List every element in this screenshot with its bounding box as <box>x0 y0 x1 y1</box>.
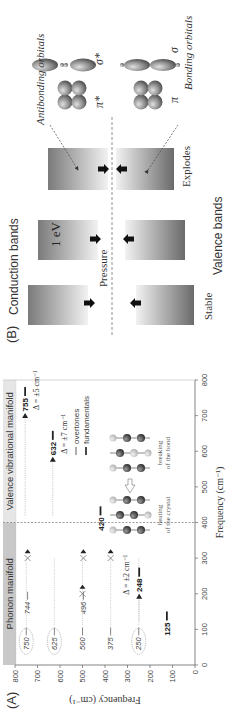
transition-arrow-icon <box>125 479 135 493</box>
atom <box>110 465 117 472</box>
state-label-explodes: Explodes <box>180 146 192 187</box>
y-tick-label: 600 <box>56 670 65 683</box>
fundamental-label: 420 <box>97 517 106 531</box>
fundamental-arrow <box>136 594 142 599</box>
atom <box>116 449 124 457</box>
figure: (A) Phonon manifoldValence vibrational m… <box>0 0 230 715</box>
overtone-label: 500 <box>78 637 87 650</box>
fundamental-label: 125 <box>163 622 172 636</box>
sigma-star-label: σ* <box>92 53 106 65</box>
y-tick-label: 800 <box>11 670 20 683</box>
fundamental-arrow <box>22 413 28 418</box>
legend: overtonesfundamentals <box>72 396 91 455</box>
sigma-orbital <box>120 59 180 71</box>
conduction-bands-label: Conduction bands <box>7 218 21 315</box>
bonding-orbitals-label: Bonding orbitals <box>182 16 194 90</box>
sigma-label: σ <box>167 46 181 53</box>
arrow-marker <box>80 549 86 553</box>
atom <box>130 449 138 457</box>
legend-label: fundamentals <box>82 396 91 444</box>
arrow-marker <box>25 549 31 553</box>
atom <box>137 464 145 472</box>
orbital-lobe <box>124 59 150 71</box>
y-tick-label: 400 <box>101 670 110 683</box>
delta-annotation: Δ = ±7 cm⁻¹ <box>60 413 69 453</box>
pi-star-orbital <box>58 81 87 110</box>
atom <box>123 496 131 504</box>
atom <box>145 450 152 457</box>
atom <box>123 526 131 534</box>
orbital-lobe <box>72 81 87 96</box>
orbital-lobe <box>148 81 163 96</box>
y-tick-label: 0 <box>191 670 200 674</box>
orbital-lobe <box>64 63 68 67</box>
panel-a: (A) Phonon manifoldValence vibrational m… <box>3 370 226 709</box>
atom <box>116 511 124 519</box>
x-tick-label: 300 <box>200 552 209 565</box>
fundamental-label: 755 <box>21 397 30 411</box>
region-label-0: Phonon manifold <box>4 558 15 629</box>
inset-left-label-2: of the crystal <box>164 497 172 534</box>
gap-label: 1 eV <box>48 221 63 247</box>
fundamental-label: 632 <box>49 441 58 455</box>
crossed-marker <box>80 555 86 561</box>
orbital-lobe <box>60 63 64 67</box>
y-tick-label: 500 <box>78 670 87 683</box>
y-tick-label: 100 <box>168 670 177 683</box>
orbital-lobe <box>150 59 176 71</box>
orbital-lobe <box>120 63 124 67</box>
crossed-marker <box>108 555 114 561</box>
x-tick-label: 500 <box>200 481 209 494</box>
y-tick-label: 300 <box>123 670 132 683</box>
valence-bands-label: Valence bands <box>211 196 225 275</box>
orbitals <box>32 59 180 110</box>
pi-label: π <box>167 96 181 103</box>
overtone-label: 744 <box>23 602 32 615</box>
overtone-label: 375 <box>106 637 115 650</box>
delta-annotation: Δ = ±5 cm⁻¹ <box>32 370 41 410</box>
inset-right-label-2: of the bond <box>164 437 172 469</box>
pi-star-label: π* <box>92 96 106 108</box>
arrow-marker <box>80 585 86 589</box>
x-tick-label: 600 <box>200 445 209 458</box>
overtone-label: 750 <box>22 637 31 650</box>
atom <box>145 512 152 519</box>
y-axis-title: Frequency (cm⁻¹) <box>69 694 141 706</box>
x-axis-title: Frequency (cm⁻¹) <box>214 467 226 539</box>
overtone-label: 250 <box>134 637 143 651</box>
atom <box>110 527 117 534</box>
atom <box>130 511 138 519</box>
antibonding-orbitals-label: Antibonding orbitals <box>34 34 46 126</box>
crossed-marker <box>25 555 31 561</box>
x-tick-label: 800 <box>200 374 209 387</box>
arrow-marker <box>108 549 114 553</box>
x-tick-label: 700 <box>200 409 209 422</box>
orbital-lobe <box>148 95 163 110</box>
pressure-label: Pressure <box>97 250 109 287</box>
overtone-label: 625 <box>50 637 59 650</box>
x-tick-label: 400 <box>200 516 209 529</box>
state-label-stable: Stable <box>202 292 214 320</box>
x-tick-label: 0 <box>200 663 209 667</box>
inset-right-label-1: breaking <box>156 440 164 465</box>
x-tick-label: 100 <box>200 623 209 636</box>
atom <box>123 464 131 472</box>
axes: 0100200300400500600700800010020030040050… <box>3 374 226 706</box>
figure-canvas: (A) Phonon manifoldValence vibrational m… <box>0 0 230 715</box>
delta-annotation: Δ = ±2 cm⁻¹ <box>122 554 131 594</box>
orbital-lobe <box>134 81 149 96</box>
molecule-inset: heatingof the crystalbreakingof the bond <box>110 434 173 534</box>
atom <box>137 434 145 442</box>
overtone-label: 496 <box>79 601 88 614</box>
atom <box>110 497 117 504</box>
y-tick-label: 200 <box>146 670 155 683</box>
fundamental-label: 248 <box>135 578 144 592</box>
conduction-band-stable <box>28 285 88 325</box>
atom <box>137 526 145 534</box>
atom <box>110 435 117 442</box>
panel-a-label: (A) <box>4 692 19 709</box>
panel-b-label: (B) <box>4 326 19 343</box>
valence-band-stable <box>136 285 194 325</box>
atom <box>137 496 145 504</box>
fundamental-arrow <box>50 457 56 462</box>
